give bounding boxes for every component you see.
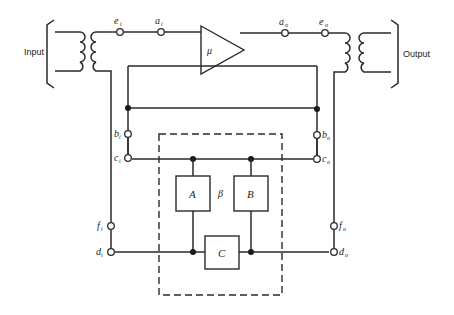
terminal-sub: i (101, 226, 103, 232)
block-a-label: A (188, 188, 196, 200)
junction-dot (125, 105, 131, 111)
terminal-c-o: c o (314, 153, 330, 165)
terminal-f-o: f o (331, 220, 346, 232)
terminal-circle-icon (158, 29, 165, 36)
input-section: Input (24, 20, 54, 88)
terminal-circle-icon (125, 131, 132, 138)
terminal-b-o: b o (314, 129, 330, 141)
terminal-sub: i (161, 21, 163, 27)
block-c-label: C (218, 247, 226, 259)
amplifier-label: μ (206, 45, 212, 56)
terminal-circle-icon (117, 29, 124, 36)
input-transformer-secondary (91, 32, 111, 222)
output-transformer-secondary (359, 33, 391, 72)
terminal-sub: i (119, 158, 121, 164)
junction-dot (190, 249, 196, 255)
input-label: Input (24, 47, 45, 57)
input-transformer-primary (55, 32, 85, 71)
terminal-sub: i (119, 134, 121, 140)
input-transformer (55, 32, 111, 222)
terminal-circle-icon (108, 223, 115, 230)
terminal-label: e (114, 15, 119, 26)
terminal-circle-icon (314, 132, 321, 139)
block-b-label: B (247, 188, 254, 200)
terminal-circle-icon (322, 30, 329, 37)
output-label: Output (403, 49, 431, 59)
output-section: Output (391, 20, 431, 88)
terminal-circle-icon (331, 249, 338, 256)
terminal-sub: o (327, 135, 330, 141)
terminal-label: e (319, 16, 324, 27)
beta-network-enclosure (159, 134, 282, 295)
terminal-circle-icon (331, 223, 338, 230)
output-transformer-primary (329, 33, 350, 222)
amplifier-mu: μ (201, 26, 244, 74)
output-transformer (329, 33, 391, 222)
terminal-sub: o (345, 252, 348, 258)
terminal-label: a (155, 15, 160, 26)
terminal-circle-icon (282, 30, 289, 37)
terminal-sub: o (327, 159, 330, 165)
feedback-amplifier-diagram: Input Output μ A β B (0, 0, 454, 315)
terminal-circle-icon (125, 155, 132, 162)
terminal-sub: i (120, 21, 122, 27)
terminal-sub: o (325, 22, 328, 28)
input-bracket (47, 20, 54, 88)
terminal-sub: i (101, 252, 103, 258)
beta-label: β (217, 188, 223, 199)
output-bracket (391, 20, 398, 88)
terminal-sub: o (343, 226, 346, 232)
junction-dot (248, 249, 254, 255)
terminal-label: a (279, 16, 284, 27)
terminal-circle-icon (108, 249, 115, 256)
terminal-circle-icon (314, 156, 321, 163)
junction-dot (314, 106, 320, 112)
terminal-sub: o (285, 22, 288, 28)
